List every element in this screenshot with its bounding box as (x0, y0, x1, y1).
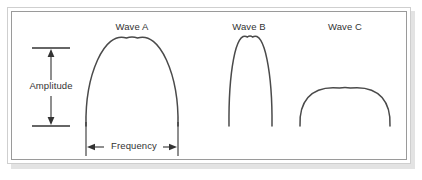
wave-c-label: Wave C (328, 21, 362, 32)
wave-b-label: Wave B (232, 21, 266, 32)
frequency-arrowhead-right (169, 144, 177, 151)
amplitude-label: Amplitude (28, 80, 74, 91)
wave-diagram-figure: Wave A Wave B Wave C Amplitude Frequency (0, 0, 422, 180)
amplitude-arrowhead-down (48, 117, 55, 125)
wave-a-label: Wave A (116, 21, 149, 32)
wave-a-curve (86, 37, 178, 126)
frequency-label: Frequency (105, 140, 163, 151)
wave-b-curve (229, 36, 272, 126)
amplitude-arrowhead-up (48, 49, 55, 57)
frequency-arrowhead-left (87, 144, 95, 151)
wave-c-curve (300, 88, 390, 126)
waves-group (86, 36, 390, 126)
